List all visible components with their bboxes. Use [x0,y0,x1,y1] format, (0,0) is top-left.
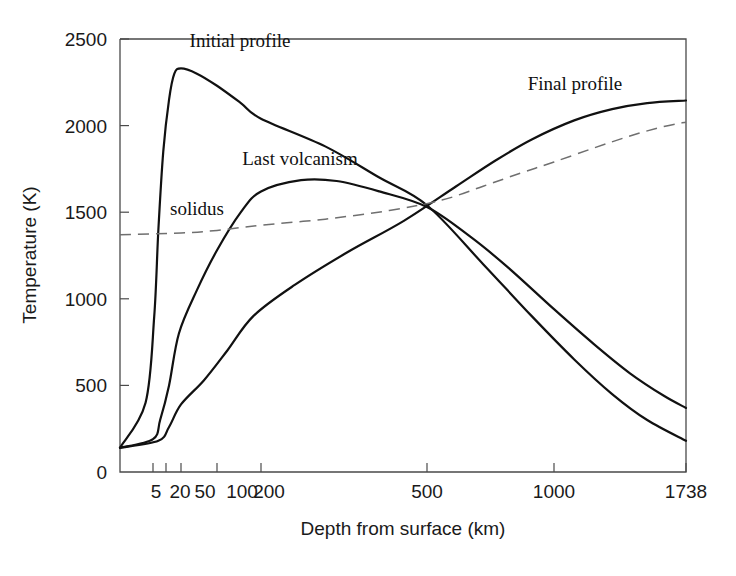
curve-last-volcanism [120,179,686,448]
x-tick-label: 20 [169,481,190,502]
x-tick-label: 200 [253,481,285,502]
y-tick-label: 500 [75,375,107,396]
annotation-final-profile: Final profile [528,73,622,94]
y-tick-label: 1500 [65,202,107,223]
x-tick-label: 5 [151,481,162,502]
annotation-last-volcanism: Last volcanism [242,148,358,169]
data-curves [120,68,686,447]
curve-annotations: Initial profileLast volcanismsolidusFina… [170,30,622,219]
annotation-solidus: solidus [170,198,224,219]
x-tick-label: 1738 [665,481,707,502]
x-axis-title: Depth from surface (km) [301,518,506,539]
x-tick-label: 1000 [533,481,575,502]
x-axis-ticks: 5205010020050010001738 [151,463,707,502]
y-tick-label: 0 [96,462,107,483]
y-tick-label: 1000 [65,289,107,310]
y-tick-label: 2500 [65,29,107,50]
chart-figure: 05001000150020002500 5205010020050010001… [0,0,736,576]
plot-frame [120,39,686,472]
temperature-depth-chart: 05001000150020002500 5205010020050010001… [0,0,736,576]
x-tick-label: 50 [194,481,215,502]
y-tick-label: 2000 [65,116,107,137]
annotation-initial-profile: Initial profile [190,30,291,51]
curve-initial-profile [120,68,686,447]
y-axis-title: Temperature (K) [19,186,40,323]
x-tick-label: 500 [411,481,443,502]
